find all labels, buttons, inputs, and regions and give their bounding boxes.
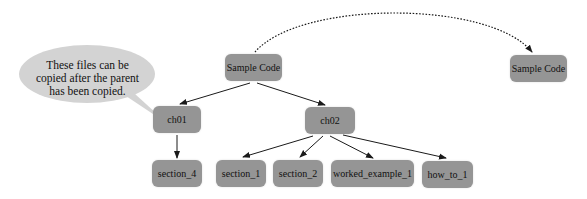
diagram-canvas: These files can be copied after the pare… [0, 0, 587, 199]
node-how-to-1: how_to_1 [422, 161, 473, 188]
callout-text: These files can be copied after the pare… [30, 59, 145, 98]
copy-arc-edge [255, 13, 532, 52]
edge-root-ch02 [257, 83, 325, 105]
node-section-1: section_1 [216, 160, 266, 187]
edge-ch02-section1 [243, 136, 313, 157]
node-section-2: section_2 [273, 160, 323, 187]
node-sample-code-copy: Sample Code [510, 55, 567, 82]
node-ch02: ch02 [305, 107, 355, 134]
node-ch01: ch01 [153, 106, 201, 133]
edge-ch02-howto [343, 135, 446, 158]
edge-ch02-worked [330, 136, 373, 158]
node-section-4: section_4 [152, 160, 202, 187]
node-worked-example-1: worked_example_1 [331, 160, 414, 187]
callout-line-1: These files can be [30, 59, 145, 72]
callout-line-2: copied after the parent [30, 72, 145, 85]
edge-root-ch01 [180, 83, 250, 104]
callout-line-3: has been copied. [30, 85, 145, 98]
node-sample-code-root: Sample Code [225, 54, 282, 81]
